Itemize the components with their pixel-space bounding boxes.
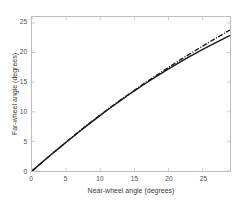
plot-axes-box xyxy=(31,16,231,172)
data-series-line-0 xyxy=(32,35,230,171)
x-axis-title: Near-wheel angle (degrees) xyxy=(31,187,231,194)
x-tick-label: 20 xyxy=(165,176,172,183)
x-tick-label: 5 xyxy=(64,176,68,183)
x-tick-label: 0 xyxy=(29,176,33,183)
plot-svg xyxy=(32,17,230,171)
y-axis-title: Far-wheel angle (degrees) xyxy=(9,16,20,172)
x-tick-label: 25 xyxy=(200,176,207,183)
x-tick-label: 10 xyxy=(96,176,103,183)
x-tick-label: 15 xyxy=(131,176,138,183)
figure-canvas: 0510152025 0510152025 Near-wheel angle (… xyxy=(0,0,243,201)
